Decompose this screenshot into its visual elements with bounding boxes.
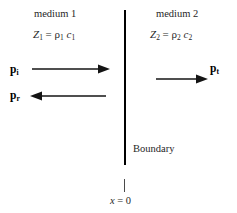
impedance-2-density: ρ2 bbox=[172, 28, 181, 40]
impedance-1-density: ρ1 bbox=[55, 28, 64, 40]
reflected-pressure-label: pr bbox=[10, 90, 20, 102]
transmitted-pressure-label: pt bbox=[210, 63, 219, 75]
medium-2-label: medium 2 bbox=[156, 9, 198, 20]
impedance-2-speed: c2 bbox=[184, 28, 193, 40]
incident-wave-arrow bbox=[32, 63, 112, 75]
medium-2-impedance-equation: Z2 = ρ2 c2 bbox=[150, 29, 192, 40]
boundary-line bbox=[124, 10, 126, 165]
impedance-1-speed: c1 bbox=[67, 28, 76, 40]
boundary-caption: Boundary bbox=[133, 144, 174, 155]
wave-boundary-diagram: medium 1 Z1 = ρ1 c1 medium 2 Z2 = ρ2 c2 … bbox=[0, 0, 237, 213]
reflected-wave-arrow bbox=[30, 90, 108, 102]
origin-tick-mark bbox=[124, 179, 125, 192]
transmitted-wave-arrow bbox=[156, 73, 210, 85]
medium-1-impedance-equation: Z1 = ρ1 c1 bbox=[33, 29, 75, 40]
incident-pressure-label: pi bbox=[10, 64, 19, 76]
medium-1-label: medium 1 bbox=[34, 9, 76, 20]
impedance-1-symbol: Z1 bbox=[33, 28, 43, 40]
impedance-2-symbol: Z2 bbox=[150, 28, 160, 40]
origin-label: x = 0 bbox=[110, 196, 131, 207]
